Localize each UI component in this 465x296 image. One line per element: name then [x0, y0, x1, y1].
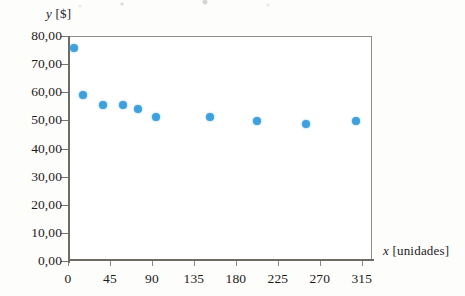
x-axis-tick-label-text: 315 — [351, 271, 372, 286]
x-axis-tick-label-text: 135 — [184, 271, 205, 286]
data-point — [152, 113, 160, 121]
data-point — [302, 120, 310, 128]
data-point — [206, 113, 214, 121]
y-axis-tick-label: 50,00 — [4, 112, 62, 128]
y-axis-tick — [61, 233, 68, 234]
y-axis-unit: [$] — [55, 6, 71, 21]
y-axis-tick — [61, 177, 68, 178]
y-axis-tick-label: 60,00 — [4, 84, 62, 100]
y-axis-tick-label-text: 0,00 — [8, 253, 62, 269]
x-axis-tick-label: 0 — [46, 269, 90, 287]
x-axis-tick — [278, 261, 279, 266]
y-axis-tick-label-text: 50,00 — [8, 112, 62, 128]
y-axis-title: y [$] — [46, 6, 71, 22]
y-axis-tick-label: 80,00 — [4, 28, 62, 44]
x-axis-tick — [194, 261, 195, 266]
data-point — [79, 91, 87, 99]
x-axis-tick — [320, 261, 321, 266]
y-axis-tick-label-text: 20,00 — [8, 197, 62, 213]
x-axis-tick-label-text: 180 — [226, 271, 247, 286]
x-axis-tick-label: 315 — [340, 269, 384, 287]
x-axis-tick-label-text: 45 — [103, 271, 117, 286]
x-axis-tick-label: 225 — [256, 269, 300, 287]
y-axis-tick-label: 0,00 — [4, 253, 62, 269]
x-axis-tick-label-text: 0 — [65, 271, 72, 286]
data-point — [119, 101, 127, 109]
y-axis-tick — [61, 149, 68, 150]
data-point — [70, 44, 78, 52]
y-axis-tick-label-text: 40,00 — [8, 141, 62, 157]
y-axis-tick-label: 70,00 — [4, 56, 62, 72]
data-point — [134, 105, 142, 113]
x-axis-tick — [236, 261, 237, 266]
y-axis-tick-label: 40,00 — [4, 141, 62, 157]
y-axis-tick — [61, 64, 68, 65]
y-axis-tick-label: 30,00 — [4, 169, 62, 185]
chart-page: y [$] x [unidades] 0,0010,0020,0030,0040… — [0, 0, 465, 296]
y-axis-tick — [61, 92, 68, 93]
x-axis-unit: [unidades] — [392, 243, 449, 258]
x-axis-tick — [362, 261, 363, 266]
x-axis-tick-label: 180 — [214, 269, 258, 287]
x-axis-tick-label: 45 — [88, 269, 132, 287]
x-axis-tick-label: 135 — [172, 269, 216, 287]
data-point — [253, 117, 261, 125]
y-axis-tick-label-text: 60,00 — [8, 84, 62, 100]
y-axis-tick-label: 20,00 — [4, 197, 62, 213]
y-axis-tick-label-text: 30,00 — [8, 169, 62, 185]
x-axis-tick-label-text: 225 — [268, 271, 289, 286]
x-axis-title: x [unidades] — [383, 243, 449, 259]
x-axis-tick-label-text: 90 — [145, 271, 159, 286]
x-axis-tick-label-text: 270 — [309, 271, 330, 286]
y-axis-tick — [61, 261, 68, 262]
y-axis-tick-label: 10,00 — [4, 225, 62, 241]
x-axis-tick-label: 90 — [130, 269, 174, 287]
y-axis-tick — [61, 120, 68, 121]
x-axis-tick-label: 270 — [298, 269, 342, 287]
plot-area — [68, 36, 372, 261]
y-axis-tick-label-text: 70,00 — [8, 56, 62, 72]
data-point — [352, 117, 360, 125]
x-axis-tick — [110, 261, 111, 266]
y-axis-tick-label-text: 80,00 — [8, 28, 62, 44]
y-axis-tick-label-text: 10,00 — [8, 225, 62, 241]
data-point — [99, 101, 107, 109]
x-axis-tick — [152, 261, 153, 266]
y-axis-tick — [61, 36, 68, 37]
y-axis-tick — [61, 205, 68, 206]
